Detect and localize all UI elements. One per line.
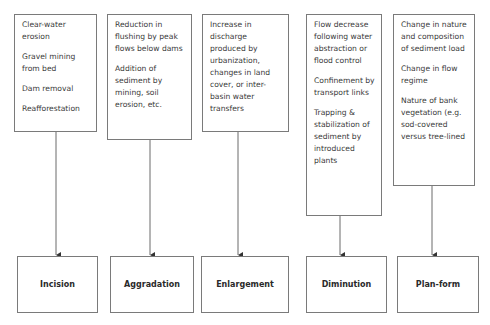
effect-box-aggradation: Aggradation — [110, 256, 194, 313]
cause-text: Clear-water erosion — [22, 19, 91, 43]
cause-text: Reafforestation — [22, 103, 91, 115]
cause-text: Dam removal — [22, 83, 91, 95]
cause-text: Flow decrease following water abstractio… — [314, 19, 376, 67]
cause-text: Change in flow regime — [401, 63, 469, 87]
effect-label: Aggradation — [124, 280, 180, 289]
cause-text: Nature of bank vegetation (e.g. sod-cove… — [401, 95, 469, 143]
cause-text: Reduction in flushing by peak flows belo… — [115, 19, 186, 55]
effect-label: Enlargement — [216, 280, 274, 289]
cause-text: Gravel mining from bed — [22, 51, 91, 75]
cause-box-plan-form: Change in nature and composition of sedi… — [393, 14, 475, 186]
cause-text: Change in nature and composition of sedi… — [401, 19, 469, 55]
cause-text: Addition of sediment by mining, soil ero… — [115, 63, 186, 111]
cause-box-diminution: Flow decrease following water abstractio… — [306, 14, 382, 216]
effect-label: Plan-form — [416, 280, 460, 289]
effect-box-plan-form: Plan-form — [397, 256, 479, 313]
cause-box-incision: Clear-water erosion Gravel mining from b… — [14, 14, 97, 132]
cause-box-aggradation: Reduction in flushing by peak flows belo… — [107, 14, 192, 140]
effect-label: Diminution — [322, 280, 372, 289]
effect-box-diminution: Diminution — [306, 256, 387, 313]
effect-label: Incision — [40, 280, 75, 289]
effect-box-enlargement: Enlargement — [201, 256, 289, 313]
cause-box-enlargement: Increase in discharge produced by urbani… — [202, 14, 289, 132]
cause-text: Trapping & stabilization of sediment by … — [314, 107, 376, 167]
cause-text: Increase in discharge produced by urbani… — [210, 19, 283, 115]
cause-text: Confinement by transport links — [314, 75, 376, 99]
effect-box-incision: Incision — [17, 256, 98, 313]
